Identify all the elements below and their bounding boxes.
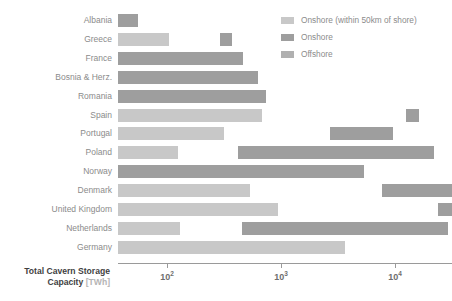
category-label: Poland [0, 146, 112, 159]
bar-row [118, 241, 452, 254]
legend-label: Onshore [301, 32, 333, 42]
bar-segment-onshore [406, 109, 419, 122]
x-axis-title-unit: [TWh] [86, 277, 110, 287]
bar-segment-onshore_50km [118, 146, 178, 159]
bar-segment-onshore [118, 165, 364, 178]
legend-item[interactable]: Onshore [281, 30, 417, 44]
legend-label: Onshore (within 50km of shore) [301, 15, 417, 25]
bar-segment-onshore_50km [118, 127, 224, 140]
bar-row [118, 165, 364, 178]
bar-row [118, 146, 434, 159]
bar-segment-onshore [220, 33, 232, 46]
bar-segment-onshore_50km [118, 203, 278, 216]
bar-segment-onshore [242, 222, 448, 235]
bar-row [118, 184, 452, 197]
bar-row [118, 52, 243, 65]
tick-base: 10 [274, 272, 284, 282]
bar-row [118, 14, 138, 27]
bar-row [118, 33, 232, 46]
category-label-list: AlbaniaGreeceFranceBosnia & Herz.Romania… [0, 14, 112, 262]
bar-segment-onshore_50km [118, 109, 262, 122]
bar-segment-onshore [118, 71, 258, 84]
bar-segment-onshore_50km [118, 33, 169, 46]
tick-base: 10 [388, 272, 398, 282]
category-label: Germany [0, 241, 112, 254]
bar-row [118, 127, 393, 140]
category-label: Norway [0, 165, 112, 178]
legend-swatch-icon [281, 51, 294, 58]
x-axis-tick-label: 103 [274, 270, 288, 282]
x-axis-tick [167, 263, 168, 268]
legend-swatch-icon [281, 17, 294, 24]
bar-segment-onshore_50km [118, 184, 250, 197]
bar-row [118, 203, 452, 216]
legend: Onshore (within 50km of shore)OnshoreOff… [281, 13, 417, 64]
bar-segment-onshore [118, 90, 266, 103]
category-label: Albania [0, 14, 112, 27]
x-axis-tick [395, 263, 396, 268]
x-axis-tick-label: 104 [388, 270, 402, 282]
category-label: Netherlands [0, 222, 112, 235]
bar-row [118, 71, 258, 84]
bar-segment-onshore [238, 146, 434, 159]
category-label: Portugal [0, 127, 112, 140]
bar-segment-onshore_50km [118, 241, 345, 254]
tick-exponent: 2 [170, 270, 174, 277]
bar-row [118, 109, 419, 122]
x-axis-tick-label: 102 [160, 270, 174, 282]
x-axis-title-line1: Total Cavern Storage [24, 266, 110, 276]
legend-swatch-icon [281, 34, 294, 41]
legend-item[interactable]: Offshore [281, 47, 417, 61]
cavern-storage-bar-chart: AlbaniaGreeceFranceBosnia & Herz.Romania… [0, 0, 452, 301]
bar-segment-onshore [118, 52, 243, 65]
legend-item[interactable]: Onshore (within 50km of shore) [281, 13, 417, 27]
category-label: France [0, 52, 112, 65]
tick-exponent: 4 [398, 270, 402, 277]
legend-label: Offshore [301, 49, 333, 59]
category-label: Spain [0, 109, 112, 122]
bar-segment-onshore_50km [118, 222, 180, 235]
x-axis-title: Total Cavern Storage Capacity [TWh] [2, 266, 110, 288]
bar-segment-onshore [118, 14, 138, 27]
x-axis-title-line2: Capacity [47, 277, 83, 287]
bar-row [118, 222, 448, 235]
bar-segment-onshore [382, 184, 452, 197]
category-label: Greece [0, 33, 112, 46]
tick-base: 10 [160, 272, 170, 282]
bar-row [118, 90, 266, 103]
category-label: Denmark [0, 184, 112, 197]
category-label: Romania [0, 90, 112, 103]
bar-segment-onshore [438, 203, 452, 216]
category-label: United Kingdom [0, 203, 112, 216]
bar-segment-onshore [330, 127, 393, 140]
x-axis-tick [281, 263, 282, 268]
category-label: Bosnia & Herz. [0, 71, 112, 84]
tick-exponent: 3 [284, 270, 288, 277]
